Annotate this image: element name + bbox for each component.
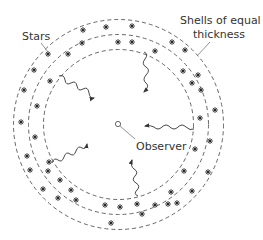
light-ray-right: [145, 125, 194, 130]
observer-label: Observer: [136, 140, 187, 153]
observer-marker-icon: [115, 121, 120, 126]
light-rays: [52, 52, 194, 196]
light-ray-bottom: [131, 160, 138, 196]
light-ray-lower-left: [52, 144, 87, 163]
olbers-shells-diagram: Observer Stars Shells of equal thickness: [0, 0, 263, 240]
observer-leader-line: [120, 126, 135, 139]
shells-label-line2: thickness: [193, 28, 245, 41]
shells-leader-line: [197, 42, 210, 56]
light-ray-upper-left: [59, 76, 94, 99]
stars-label: Stars: [22, 30, 51, 43]
light-ray-top: [143, 52, 148, 92]
shells-label-line1: Shells of equal: [180, 14, 261, 27]
